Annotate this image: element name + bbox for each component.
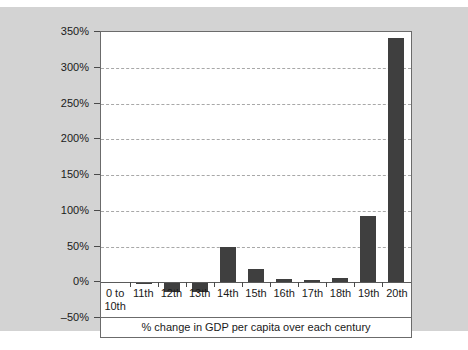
x-axis-tick-label: 14th <box>214 287 242 300</box>
bar-slot <box>354 32 382 317</box>
x-axis-tick-label: 17th <box>298 287 326 300</box>
x-axis-tick-mark <box>354 282 355 287</box>
bar-slot <box>130 32 158 317</box>
x-axis-tick-mark <box>382 282 383 287</box>
chart-figure-panel: 350%300%250%200%150%100%50%0%‒50% 0 to10… <box>0 7 468 331</box>
x-axis-tick-mark <box>214 282 215 287</box>
y-axis-labels: 350%300%250%200%150%100%50%0%‒50% <box>0 31 94 317</box>
y-axis-tick-label: 150% <box>2 174 94 186</box>
bar[interactable] <box>220 247 236 282</box>
bars-container <box>102 32 410 317</box>
y-axis-tick-label: ‒50% <box>2 317 94 329</box>
axis-title-box: % change in GDP per capita over each cen… <box>100 317 412 338</box>
zero-baseline <box>101 282 411 283</box>
x-axis-tick-label: 15th <box>242 287 270 300</box>
bar-slot <box>186 32 214 317</box>
x-axis-tick-label: 20th <box>383 287 411 300</box>
x-axis-tick-label: 12th <box>157 287 185 300</box>
x-axis-tick-mark <box>270 282 271 287</box>
y-axis-tick-label: 100% <box>2 210 94 222</box>
x-axis-tick-label: 0 to10th <box>101 287 129 313</box>
bar-slot <box>298 32 326 317</box>
x-axis-tick-mark <box>298 282 299 287</box>
bar[interactable] <box>248 269 264 283</box>
bar-slot <box>102 32 130 317</box>
x-axis-tick-mark <box>326 282 327 287</box>
y-axis-tick-label: 0% <box>2 281 94 293</box>
bar-slot <box>382 32 410 317</box>
y-axis-tick-label: 350% <box>2 31 94 43</box>
y-axis-tick-label: 50% <box>2 246 94 258</box>
plot-area <box>100 31 412 317</box>
x-axis-tick-label: 13th <box>186 287 214 300</box>
x-axis-labels: 0 to10th11th12th13th14th15th16th17th18th… <box>101 287 411 319</box>
bar[interactable] <box>360 216 376 282</box>
x-axis-tick-label: 19th <box>355 287 383 300</box>
bar-slot <box>158 32 186 317</box>
y-axis-tick-label: 300% <box>2 67 94 79</box>
y-axis-tick-label: 200% <box>2 138 94 150</box>
bar-slot <box>270 32 298 317</box>
x-axis-tick-mark <box>158 282 159 287</box>
x-axis-tick-label: 16th <box>270 287 298 300</box>
bar-slot <box>242 32 270 317</box>
x-axis-tick-label: 11th <box>129 287 157 300</box>
x-axis-tick-label: 18th <box>326 287 354 300</box>
x-axis-tick-mark <box>186 282 187 287</box>
y-axis-tick-label: 250% <box>2 103 94 115</box>
bar[interactable] <box>388 38 404 283</box>
x-axis-tick-mark <box>130 282 131 287</box>
bar-slot <box>214 32 242 317</box>
bar-slot <box>326 32 354 317</box>
x-axis-title: % change in GDP per capita over each cen… <box>101 321 411 333</box>
x-axis-tick-mark <box>242 282 243 287</box>
